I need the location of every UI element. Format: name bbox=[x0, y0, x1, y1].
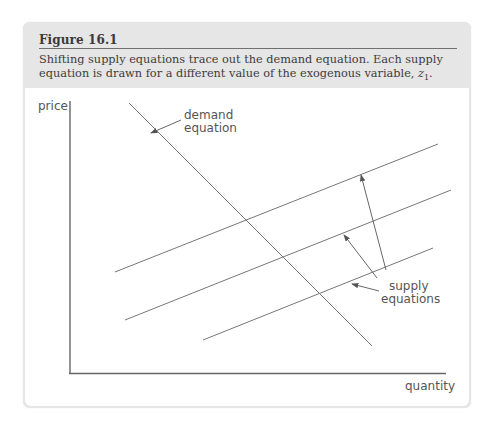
y-axis-label: price bbox=[38, 100, 68, 113]
supply-line-1 bbox=[115, 144, 438, 272]
demand-arrow-icon bbox=[151, 120, 181, 133]
supply-label-2: equations bbox=[381, 293, 440, 306]
demand-label-2: equation bbox=[184, 122, 237, 135]
x-axis-label: quantity bbox=[405, 380, 455, 393]
supply-arrow-2-icon bbox=[344, 235, 377, 278]
supply-arrow-1-icon bbox=[361, 175, 386, 270]
supply-arrow-3-icon bbox=[352, 284, 379, 291]
demand-line bbox=[129, 103, 372, 346]
diagram-svg bbox=[0, 0, 494, 436]
